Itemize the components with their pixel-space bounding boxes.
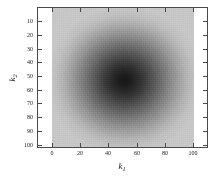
ytick-right-70: [203, 103, 207, 104]
ytick-50: [38, 76, 42, 77]
xtick-top-40: [108, 8, 109, 12]
ytick-right-80: [203, 117, 207, 118]
xtick-top-60: [137, 8, 138, 12]
yticklabel-80: 80: [27, 114, 33, 121]
ytick-100: [38, 145, 42, 146]
xtick-0: [52, 143, 53, 147]
y-axis-label-base: k: [7, 78, 17, 82]
xtick-top-80: [165, 8, 166, 12]
yticklabel-20: 20: [27, 32, 33, 39]
yticklabel-100: 100: [24, 142, 33, 149]
ytick-20: [38, 35, 42, 36]
xtick-20: [80, 143, 81, 147]
x-axis-label-subscript: 1: [122, 166, 125, 172]
heatmap-noise-overlay: [52, 8, 194, 147]
ytick-right-10: [203, 21, 207, 22]
ytick-right-30: [203, 49, 207, 50]
ytick-10: [38, 21, 42, 22]
xtick-100: [193, 143, 194, 147]
ytick-80: [38, 117, 42, 118]
ytick-60: [38, 90, 42, 91]
yticklabel-70: 70: [27, 100, 33, 107]
ytick-right-90: [203, 131, 207, 132]
yticklabel-30: 30: [27, 46, 33, 53]
xticklabel-0: 0: [51, 150, 54, 157]
x-axis-label: k1: [118, 161, 125, 172]
xtick-60: [137, 143, 138, 147]
xticklabel-40: 40: [105, 150, 111, 157]
yticklabel-90: 90: [27, 128, 33, 135]
plot-axes: [37, 7, 208, 148]
ytick-right-20: [203, 35, 207, 36]
xtick-top-0: [52, 8, 53, 12]
figure-canvas: 0 20 40 60 80 100 10 20 30 40 50 60 70 8…: [0, 0, 223, 176]
xtick-40: [108, 143, 109, 147]
ytick-right-100: [203, 145, 207, 146]
ytick-right-60: [203, 90, 207, 91]
ytick-right-40: [203, 62, 207, 63]
y-axis-label-subscript: 2: [11, 74, 17, 77]
xticklabel-20: 20: [77, 150, 83, 157]
ytick-30: [38, 49, 42, 50]
xtick-top-20: [80, 8, 81, 12]
yticklabel-10: 10: [27, 18, 33, 25]
yticklabel-40: 40: [27, 59, 33, 66]
xticklabel-80: 80: [162, 150, 168, 157]
xtick-80: [165, 143, 166, 147]
heatmap-image: [52, 8, 194, 147]
xticklabel-60: 60: [134, 150, 140, 157]
y-axis-label: k2: [7, 74, 18, 81]
ytick-90: [38, 131, 42, 132]
xticklabel-100: 100: [189, 150, 198, 157]
ytick-right-50: [203, 76, 207, 77]
yticklabel-50: 50: [27, 73, 33, 80]
xtick-top-100: [193, 8, 194, 12]
ytick-40: [38, 62, 42, 63]
ytick-70: [38, 103, 42, 104]
yticklabel-60: 60: [27, 87, 33, 94]
